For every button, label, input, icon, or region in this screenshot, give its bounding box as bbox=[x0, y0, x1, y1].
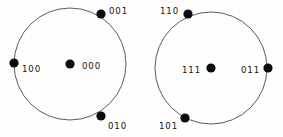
orbit-node-110: 110 bbox=[160, 6, 193, 19]
node-label-011: 011 bbox=[241, 65, 260, 75]
orbit-diagram-figure: 000001100010111110011101 bbox=[0, 0, 283, 137]
node-dot-101 bbox=[180, 113, 189, 122]
center-node-111: 111 bbox=[182, 63, 216, 74]
node-dot-011 bbox=[263, 63, 272, 72]
orbit-000-group: 000001100010 bbox=[9, 6, 128, 131]
orbit-111-group: 111110011101 bbox=[155, 6, 273, 131]
orbit-node-010: 010 bbox=[96, 111, 127, 130]
node-dot-000 bbox=[65, 59, 74, 68]
orbit-node-011: 011 bbox=[241, 63, 273, 74]
node-dot-001 bbox=[96, 9, 105, 18]
node-label-000: 000 bbox=[82, 61, 101, 71]
orbit-node-001: 001 bbox=[96, 6, 128, 19]
node-dot-010 bbox=[96, 111, 105, 120]
node-dot-111 bbox=[206, 63, 215, 72]
node-label-111: 111 bbox=[182, 65, 201, 75]
node-label-101: 101 bbox=[159, 121, 178, 131]
center-node-000: 000 bbox=[65, 59, 101, 70]
orbit-node-101: 101 bbox=[159, 113, 190, 130]
diagram-canvas: 000001100010111110011101 bbox=[0, 0, 283, 137]
node-label-010: 010 bbox=[108, 121, 127, 131]
node-label-110: 110 bbox=[160, 6, 179, 16]
node-dot-100 bbox=[9, 58, 18, 67]
node-label-100: 100 bbox=[22, 64, 41, 74]
node-dot-110 bbox=[183, 9, 192, 18]
node-label-001: 001 bbox=[109, 6, 128, 16]
